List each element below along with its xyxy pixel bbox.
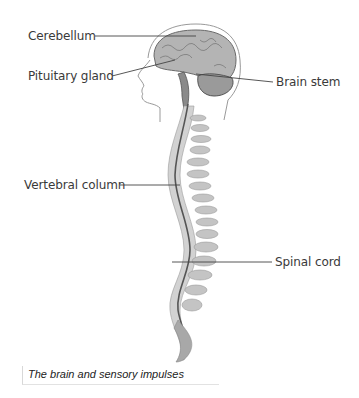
caption-text: The brain and sensory impulses — [28, 368, 184, 380]
label-cerebellum: Cerebellum — [28, 29, 96, 43]
label-spinal-cord: Spinal cord — [275, 255, 341, 269]
label-vertebral-column: Vertebral column — [24, 178, 125, 192]
label-pituitary-gland: Pituitary gland — [28, 69, 114, 83]
anatomy-illustration — [0, 0, 359, 398]
label-brain-stem: Brain stem — [276, 75, 340, 89]
figure-caption: The brain and sensory impulses — [22, 366, 219, 385]
vertebral-column — [168, 106, 218, 360]
